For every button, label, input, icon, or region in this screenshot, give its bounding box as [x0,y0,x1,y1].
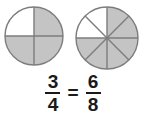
circle-model-eighths [75,6,139,70]
fraction-right-denominator: 8 [86,95,101,114]
circle-models-row [0,0,146,74]
fraction-left: 3 4 [45,72,60,114]
equals-sign: = [67,82,78,104]
circle-model-quarters [4,6,64,66]
fraction-left-denominator: 4 [46,95,61,114]
equation: 3 4 = 6 8 [0,72,146,113]
fraction-right: 6 8 [86,72,101,114]
fraction-diagram-figure: 3 4 = 6 8 [0,0,146,113]
fraction-left-numerator: 3 [46,72,61,91]
fraction-right-numerator: 6 [86,72,101,91]
